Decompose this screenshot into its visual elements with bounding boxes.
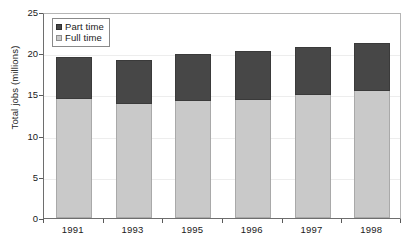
- y-tick-mark-5: [39, 178, 43, 179]
- y-tick-mark-25: [39, 13, 43, 14]
- cut-off-caption: [0, 0, 414, 1]
- x-tick-mark-5: [341, 219, 342, 223]
- legend-item-part-time[interactable]: Part time: [56, 21, 104, 32]
- y-axis-tick-labels: 0510152025: [12, 0, 38, 245]
- y-tick-label-25: 25: [14, 8, 38, 18]
- y-tick-label-5: 5: [14, 173, 38, 183]
- bar-segment-part-time-1993[interactable]: [116, 60, 152, 104]
- bar-group-1996[interactable]: [235, 12, 271, 218]
- light-gray-swatch-icon: [56, 35, 62, 41]
- x-tick-label-1991: 1991: [43, 224, 103, 235]
- bar-group-1997[interactable]: [295, 12, 331, 218]
- bar-segment-full-time-1991[interactable]: [56, 99, 92, 218]
- chart-legend: Part time Full time: [52, 18, 110, 47]
- y-tick-mark-20: [39, 54, 43, 55]
- bar-segment-full-time-1998[interactable]: [354, 91, 390, 218]
- y-tick-mark-15: [39, 95, 43, 96]
- bar-segment-full-time-1993[interactable]: [116, 104, 152, 218]
- x-tick-mark-6: [400, 219, 401, 223]
- legend-label-full-time: Full time: [65, 33, 102, 43]
- bar-group-1998[interactable]: [354, 12, 390, 218]
- x-tick-label-1998: 1998: [341, 224, 401, 235]
- x-tick-mark-1: [103, 219, 104, 223]
- bar-segment-full-time-1997[interactable]: [295, 95, 331, 218]
- bar-segment-part-time-1991[interactable]: [56, 57, 92, 100]
- bar-segment-part-time-1995[interactable]: [175, 54, 211, 101]
- x-tick-mark-3: [222, 219, 223, 223]
- y-tick-mark-10: [39, 137, 43, 138]
- x-axis-tick-labels: 199119931995199619971998: [43, 224, 401, 242]
- y-tick-mark-0: [39, 219, 43, 220]
- legend-label-part-time: Part time: [65, 22, 104, 32]
- y-tick-label-15: 15: [14, 90, 38, 100]
- bar-group-1995[interactable]: [175, 12, 211, 218]
- x-tick-mark-2: [162, 219, 163, 223]
- y-tick-label-20: 20: [14, 49, 38, 59]
- x-tick-mark-4: [282, 219, 283, 223]
- x-tick-label-1997: 1997: [282, 224, 342, 235]
- x-tick-mark-0: [43, 219, 44, 223]
- bar-segment-part-time-1996[interactable]: [235, 51, 271, 100]
- x-tick-label-1993: 1993: [103, 224, 163, 235]
- bar-segment-part-time-1998[interactable]: [354, 43, 390, 92]
- y-tick-label-0: 0: [14, 214, 38, 224]
- bar-segment-full-time-1996[interactable]: [235, 100, 271, 218]
- bar-segment-full-time-1995[interactable]: [175, 101, 211, 218]
- legend-item-full-time[interactable]: Full time: [56, 32, 104, 43]
- dark-gray-swatch-icon: [56, 24, 62, 30]
- bar-group-1993[interactable]: [116, 12, 152, 218]
- x-tick-label-1995: 1995: [162, 224, 222, 235]
- x-tick-label-1996: 1996: [222, 224, 282, 235]
- y-tick-label-10: 10: [14, 132, 38, 142]
- stacked-bar-chart: Total jobs (millions) 0510152025 1991199…: [0, 0, 414, 245]
- bar-segment-part-time-1997[interactable]: [295, 47, 331, 96]
